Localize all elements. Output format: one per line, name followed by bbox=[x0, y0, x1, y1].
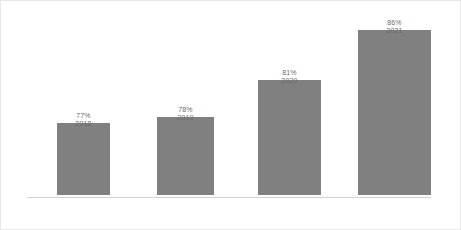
bar-group-2019: 78% 2019 bbox=[157, 106, 214, 195]
bar-group-2020: 81% 2020 bbox=[258, 69, 321, 195]
bar-group-2021: 86% 2021 bbox=[358, 19, 431, 195]
bar-value-label: 86% bbox=[387, 19, 402, 26]
bar-rect[interactable] bbox=[57, 123, 110, 195]
category-label: 2019 bbox=[157, 114, 214, 121]
bar-value-label: 77% bbox=[76, 112, 91, 119]
bar-rect[interactable] bbox=[157, 117, 214, 195]
plot-area: 77% 2018 78% 2019 81% 2020 86% 2021 bbox=[1, 1, 460, 229]
bar-chart: 77% 2018 78% 2019 81% 2020 86% 2021 bbox=[0, 0, 461, 230]
bar-value-label: 78% bbox=[178, 106, 193, 113]
category-axis-line bbox=[27, 197, 431, 198]
category-label: 2020 bbox=[258, 77, 321, 84]
category-label: 2018 bbox=[57, 120, 110, 127]
bar-value-label: 81% bbox=[282, 69, 297, 76]
category-label: 2021 bbox=[358, 27, 431, 34]
bar-group-2018: 77% 2018 bbox=[57, 112, 110, 195]
bar-rect[interactable] bbox=[258, 80, 321, 195]
bar-rect[interactable] bbox=[358, 30, 431, 195]
